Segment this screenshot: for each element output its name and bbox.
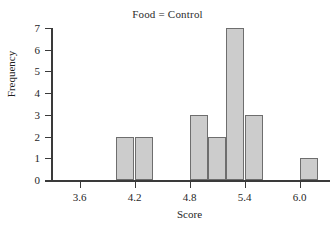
x-axis-tick	[300, 182, 302, 188]
y-axis-tick	[45, 158, 51, 159]
y-axis-tick-label: 3	[26, 110, 40, 121]
x-axis-tick	[80, 182, 82, 188]
histogram-bar	[208, 137, 226, 180]
y-axis-tick	[45, 115, 51, 116]
x-axis-tick-label: 6.0	[283, 191, 317, 203]
x-axis-tick	[245, 182, 247, 188]
x-axis-tick-label: 3.6	[63, 191, 97, 203]
y-axis-tick	[45, 28, 51, 29]
histogram-bars	[52, 28, 327, 180]
y-axis-label: Frequency	[5, 34, 17, 114]
histogram-bar	[135, 137, 153, 180]
histogram-bar	[245, 115, 263, 180]
x-axis-label: Score	[52, 208, 327, 220]
y-axis-tick-label: 5	[26, 66, 40, 77]
x-axis-tick-label: 5.4	[228, 191, 262, 203]
y-axis-tick-label: 0	[26, 175, 40, 186]
chart-title: Food = Control	[0, 8, 335, 20]
x-axis-tick	[135, 182, 137, 188]
y-axis-tick-label: 7	[26, 23, 40, 34]
y-axis-tick	[45, 137, 51, 138]
histogram-bar	[190, 115, 208, 180]
histogram-figure: Food = Control Frequency 01234567 3.64.2…	[0, 0, 335, 234]
y-axis-tick-label: 4	[26, 88, 40, 99]
y-axis-tick	[45, 50, 51, 51]
y-axis-tick-label: 1	[26, 153, 40, 164]
x-axis-tick-label: 4.8	[173, 191, 207, 203]
x-axis-tick-label: 4.2	[118, 191, 152, 203]
y-axis-tick	[45, 180, 51, 181]
histogram-bar	[300, 158, 318, 180]
y-axis-tick	[45, 71, 51, 72]
histogram-bar	[226, 28, 244, 180]
x-axis-tick	[190, 182, 192, 188]
y-axis-tick	[45, 93, 51, 94]
y-axis-tick-label: 6	[26, 45, 40, 56]
y-axis-tick-label: 2	[26, 132, 40, 143]
plot-area	[52, 28, 327, 180]
x-axis-line	[45, 180, 330, 182]
histogram-bar	[116, 137, 134, 180]
